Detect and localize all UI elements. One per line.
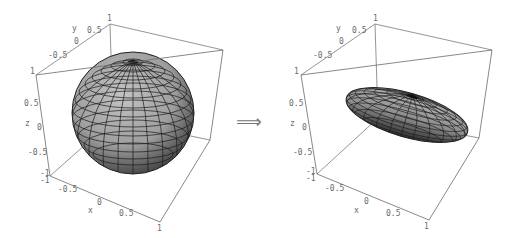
z-tick-0: 0 — [302, 124, 307, 132]
sphere-panel: y 0.5 1 0 -0.5 1 0.5 z 0 -0.5 -1 -1 -0.5… — [0, 0, 250, 238]
ellipsoid-panel: y 0.5 1 0 -0.5 1 0.5 z 0 -0.5 -1 -1 -0.5… — [257, 0, 507, 238]
x-axis-label: x — [88, 207, 93, 215]
y-tick-0: 0 — [339, 38, 344, 46]
y-axis-label: y — [72, 25, 77, 33]
x-tick-1: 1 — [424, 223, 429, 231]
x-tick-neg1: -1 — [306, 175, 316, 183]
x-tick-neg0.5: -0.5 — [58, 186, 77, 194]
x-tick-neg1: -1 — [40, 177, 50, 185]
x-tick-0: 0 — [97, 199, 102, 207]
z-tick-0: 0 — [37, 124, 42, 132]
x-axis-label: x — [354, 207, 359, 215]
sphere-plot — [0, 0, 250, 238]
y-tick-0: 0 — [74, 38, 79, 46]
x-tick-0.5: 0.5 — [386, 210, 400, 218]
z-axis-label: z — [290, 120, 295, 128]
z-tick-0.5: 0.5 — [289, 100, 303, 108]
ellipsoid-surface — [340, 76, 474, 154]
y-tick-neg0.5: -0.5 — [48, 52, 67, 60]
y-tick-0.5: 0.5 — [87, 27, 101, 35]
z-tick-neg0.5: -0.5 — [293, 149, 312, 157]
z-axis-label: z — [25, 120, 30, 128]
x-tick-0.5: 0.5 — [119, 210, 133, 218]
y-tick-1: 1 — [107, 15, 112, 23]
z-tick-1: 1 — [30, 68, 35, 76]
y-tick-neg0.5: -0.5 — [313, 52, 332, 60]
x-tick-1: 1 — [157, 225, 162, 233]
x-tick-neg0.5: -0.5 — [325, 185, 344, 193]
x-tick-0: 0 — [364, 198, 369, 206]
y-axis-label: y — [336, 25, 341, 33]
z-tick-0.5: 0.5 — [24, 100, 38, 108]
z-tick-neg0.5: -0.5 — [28, 149, 47, 157]
z-tick-1: 1 — [294, 68, 299, 76]
y-tick-1: 1 — [373, 15, 378, 23]
sphere-surface — [71, 52, 195, 174]
y-tick-0.5: 0.5 — [352, 27, 366, 35]
